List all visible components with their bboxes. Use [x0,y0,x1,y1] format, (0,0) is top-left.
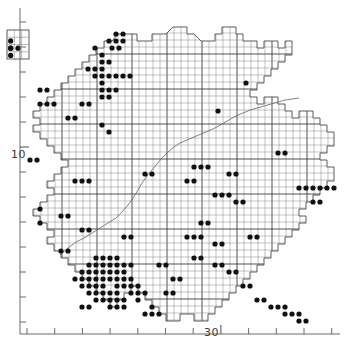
record-dot [51,101,56,106]
record-dot [127,73,132,78]
record-dot [233,269,238,274]
record-dot [121,304,126,309]
record-dot [142,290,147,295]
record-dot [86,304,91,309]
record-dot [226,171,231,176]
grid-layer [27,19,340,330]
record-dot [212,241,217,246]
record-dot [156,311,161,316]
record-dot [8,46,13,51]
record-dot [149,311,154,316]
record-dot [226,269,231,274]
record-dot [8,38,13,43]
record-dot [233,199,238,204]
record-dot [106,73,111,78]
record-dot [86,269,91,274]
record-dot [114,283,119,288]
record-dot [37,206,42,211]
record-dot [107,290,112,295]
record-dot [44,87,49,92]
record-dot [275,304,280,309]
record-dot [114,262,119,267]
record-dot [205,220,210,225]
record-dot [113,31,118,36]
record-dot [324,185,329,190]
record-dot [65,213,70,218]
record-dot [219,241,224,246]
record-dot [184,178,189,183]
record-dot [114,297,119,302]
record-dot [254,234,259,239]
record-dot [170,290,175,295]
record-dot [296,311,301,316]
record-dot [282,150,287,155]
record-dot [72,115,77,120]
record-dot [37,101,42,106]
record-dot [79,269,84,274]
distribution-map-figure: 10 30 [0,0,350,355]
record-dot [128,234,133,239]
record-dot [121,276,126,281]
record-dot [205,164,210,169]
record-dot [116,45,121,50]
record-dot [317,185,322,190]
record-dot [303,318,308,323]
river-line [60,98,299,255]
record-dot [86,178,91,183]
record-dot [142,311,147,316]
record-dot [191,255,196,260]
record-dot [106,38,111,43]
record-dot [93,262,98,267]
record-dot [93,276,98,281]
record-dot [85,66,90,71]
record-dot [114,269,119,274]
record-dot [163,262,168,267]
record-dot [58,248,63,253]
record-dot [240,283,245,288]
record-dot [99,122,104,127]
record-dot [99,87,104,92]
record-dot [58,213,63,218]
record-dot [37,220,42,225]
record-dot [99,80,104,85]
record-dot [99,59,104,64]
record-dot [282,304,287,309]
record-dot [100,255,105,260]
record-dot [128,262,133,267]
record-dot [99,52,104,57]
record-dot [8,53,13,58]
island-inset [7,30,29,59]
record-dot [261,297,266,302]
record-dot [106,59,111,64]
record-dot [233,171,238,176]
record-dot [121,234,126,239]
record-dot [219,192,224,197]
record-dot [79,276,84,281]
record-dot [268,304,273,309]
record-dot [219,262,224,267]
record-dot [121,297,126,302]
record-dot [107,262,112,267]
record-dot [79,178,84,183]
record-dot [100,262,105,267]
record-dot [128,290,133,295]
record-dot [170,276,175,281]
record-dot [106,129,111,134]
record-dot [289,311,294,316]
record-dot [163,290,168,295]
record-dot [34,157,39,162]
record-dot [109,45,114,50]
record-dot [128,283,133,288]
record-dot [177,276,182,281]
record-dot [72,178,77,183]
record-dot [99,94,104,99]
record-dot [114,276,119,281]
record-dot [254,297,259,302]
x-axis-tick-label: 30 [204,326,219,339]
record-dot [100,269,105,274]
record-dot [135,297,140,302]
record-dot [93,297,98,302]
record-dot [100,283,105,288]
record-dot [44,101,49,106]
record-dot [282,311,287,316]
